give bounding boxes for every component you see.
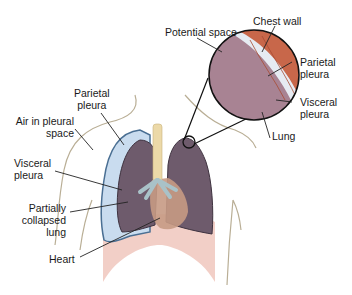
- body-outline-right-arm: [227, 200, 241, 285]
- label-heart: Heart: [49, 253, 75, 265]
- trachea: [153, 124, 162, 182]
- label-parietal-pleura: Parietal pleura: [74, 87, 110, 111]
- label-parietal-pleura-inset: Parietal pleura: [300, 56, 336, 80]
- label-potential-space: Potential space: [165, 26, 237, 38]
- label-lung: Lung: [272, 130, 295, 142]
- label-chest-wall: Chest wall: [253, 15, 301, 27]
- body-outline-left-arm: [80, 200, 92, 250]
- label-partially-collapsed-lung: Partially collapsed lung: [8, 202, 66, 238]
- pneumothorax-diagram: [0, 0, 352, 295]
- label-visceral-pleura: Visceral pleura: [14, 157, 51, 181]
- label-air-in-pleural-space: Air in pleural space: [14, 115, 74, 139]
- label-visceral-pleura-inset: Visceral pleura: [300, 96, 337, 120]
